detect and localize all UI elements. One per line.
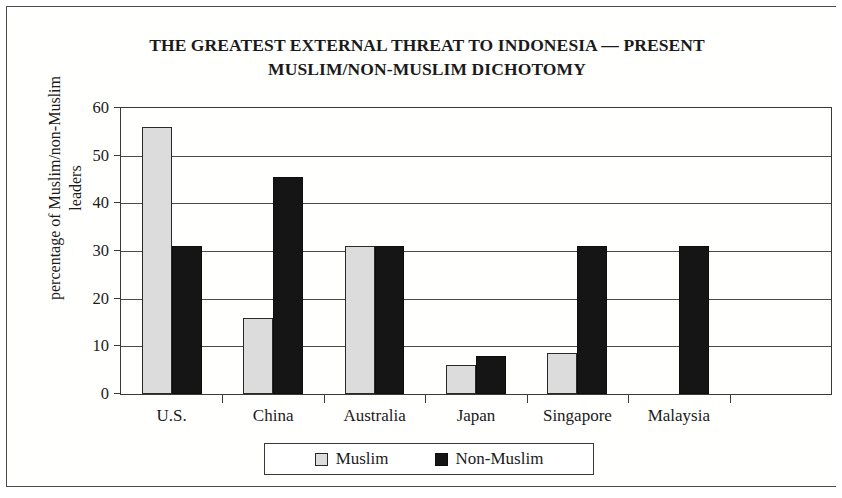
x-axis-tick-mark	[628, 394, 629, 403]
plot-area: 0102030405060U.S.ChinaAustraliaJapanSing…	[120, 107, 832, 395]
y-axis-tick-mark	[114, 250, 121, 251]
figure-frame: THE GREATEST EXTERNAL THREAT TO INDONESI…	[6, 6, 836, 487]
x-axis-label-australia: Australia	[324, 406, 425, 426]
bar-china-non-muslim[interactable]	[273, 177, 303, 394]
x-axis-label-japan: Japan	[425, 406, 526, 426]
bar-u-s-muslim[interactable]	[142, 127, 172, 394]
y-axis-tick-label: 10	[93, 336, 110, 356]
bar-china-muslim[interactable]	[243, 318, 273, 394]
y-axis-tick-label: 0	[101, 384, 109, 404]
y-axis-tick-label: 30	[93, 241, 110, 261]
legend-swatch-non-muslim-icon	[435, 453, 448, 466]
chart-title: THE GREATEST EXTERNAL THREAT TO INDONESI…	[67, 33, 787, 81]
y-axis-title: percentage of Muslim/non-Muslim leaders	[44, 38, 86, 338]
bar-malaysia-non-muslim[interactable]	[679, 246, 709, 394]
chart-legend: Muslim Non-Muslim	[264, 443, 594, 475]
y-axis-tick-label: 40	[93, 193, 110, 213]
legend-entry-muslim: Muslim	[315, 449, 389, 469]
bar-group	[628, 108, 729, 394]
bar-group	[425, 108, 526, 394]
bar-australia-non-muslim[interactable]	[375, 246, 405, 394]
y-axis-tick-mark	[114, 202, 121, 203]
y-axis-title-line-1: percentage of Muslim/non-Muslim	[44, 38, 65, 338]
x-axis-tick-mark	[324, 394, 325, 403]
y-axis-tick-label: 20	[93, 289, 110, 309]
chart-title-line-1: THE GREATEST EXTERNAL THREAT TO INDONESI…	[149, 35, 705, 55]
bar-group	[121, 108, 222, 394]
x-axis-label-u-s: U.S.	[121, 406, 222, 426]
y-axis-tick-mark	[114, 345, 121, 346]
bar-group	[222, 108, 323, 394]
chart-title-line-2: MUSLIM/NON-MUSLIM DICHOTOMY	[67, 57, 787, 81]
y-axis-tick-mark	[114, 107, 121, 108]
y-axis-tick-mark	[114, 298, 121, 299]
bar-singapore-non-muslim[interactable]	[577, 246, 607, 394]
bar-group	[527, 108, 628, 394]
bar-group	[324, 108, 425, 394]
y-axis-tick-mark	[114, 393, 121, 394]
y-axis-tick-mark	[114, 155, 121, 156]
bar-japan-muslim[interactable]	[446, 365, 476, 394]
y-axis-tick-label: 50	[93, 146, 110, 166]
x-axis-tick-mark	[527, 394, 528, 403]
y-axis-title-line-2: leaders	[65, 38, 86, 338]
bar-japan-non-muslim[interactable]	[476, 356, 506, 394]
x-axis-tick-mark	[222, 394, 223, 403]
bar-u-s-non-muslim[interactable]	[172, 246, 202, 394]
x-axis-label-malaysia: Malaysia	[628, 406, 729, 426]
bar-australia-muslim[interactable]	[345, 246, 375, 394]
legend-label-non-muslim: Non-Muslim	[456, 449, 544, 469]
x-axis-label-singapore: Singapore	[527, 406, 628, 426]
legend-label-muslim: Muslim	[336, 449, 389, 469]
x-axis-label-china: China	[222, 406, 323, 426]
legend-entry-non-muslim: Non-Muslim	[435, 449, 544, 469]
x-axis-tick-mark	[425, 394, 426, 403]
x-axis-tick-mark	[730, 394, 731, 403]
legend-swatch-muslim-icon	[315, 453, 328, 466]
bar-singapore-muslim[interactable]	[547, 353, 577, 394]
y-axis-tick-label: 60	[93, 98, 110, 118]
